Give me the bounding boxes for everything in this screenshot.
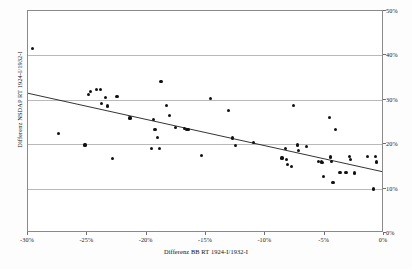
x-tick-mark [27,232,28,235]
chart-figure: 0%10%20%30%40%50% -30%-25%-20%-15%-10%-5… [0,0,412,269]
x-tick-label: 0% [379,236,387,243]
data-point [331,181,334,184]
data-point [338,171,341,174]
y-axis-label: Differenz NSDAP RT 1924-I/1932-I [16,25,23,175]
y-tick-label: 40% [386,51,398,58]
x-tick-mark [86,232,87,235]
data-point [156,136,159,139]
data-point [159,80,162,83]
data-point [83,143,86,146]
y-tick-label: 50% [386,7,398,14]
x-tick-label: -25% [79,236,93,243]
x-tick-mark [146,232,147,235]
x-axis-label: Differenz BB RT 1924-I/1932-I [0,248,412,255]
data-point [99,88,102,91]
trendline [28,11,382,231]
x-tick-mark [264,232,265,235]
data-point [321,161,324,164]
plot-area [27,10,383,232]
data-point [353,171,356,174]
data-point [200,154,203,157]
y-tick-label: 10% [386,184,398,191]
x-tick-label: -5% [318,236,329,243]
data-point [280,156,283,159]
y-tick-label: 0% [386,229,394,236]
x-tick-mark [324,232,325,235]
data-point [231,136,234,139]
x-tick-mark [205,232,206,235]
data-point [106,104,109,107]
y-tick-label: 30% [386,95,398,102]
data-point [187,128,190,131]
data-point [153,128,156,131]
data-point [290,165,293,168]
x-tick-label: -20% [139,236,153,243]
data-point [296,143,299,146]
data-point [329,155,332,158]
data-point [328,116,331,119]
data-point [104,96,107,99]
data-point [150,147,153,150]
data-point [111,157,114,160]
data-point [334,128,337,131]
x-tick-label: -30% [20,236,34,243]
trendline-segment [28,93,382,171]
data-point [115,95,118,98]
data-point [344,171,347,174]
data-point [168,114,171,117]
x-tick-label: -15% [198,236,212,243]
data-point [372,187,375,190]
data-point [128,116,131,119]
x-tick-mark [383,232,384,235]
x-tick-label: -10% [257,236,271,243]
y-tick-label: 20% [386,140,398,147]
